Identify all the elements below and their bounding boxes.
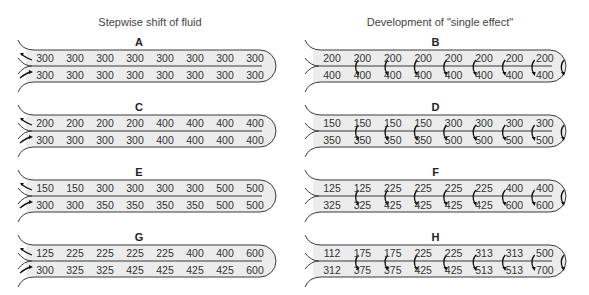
upper-limb-value: 225 [469, 182, 499, 194]
upper-limb-value: 300 [90, 182, 120, 194]
panel-d: D150350150350150350150350300500300500300… [305, 101, 570, 161]
upper-limb-value: 300 [210, 52, 240, 64]
lower-limb-value: 350 [317, 134, 347, 146]
upper-limb-value: 400 [240, 117, 270, 129]
lower-limb-value: 350 [378, 134, 408, 146]
tube-diagram [18, 166, 280, 226]
lower-limb-value: 350 [347, 134, 377, 146]
lower-limb-value: 300 [60, 69, 90, 81]
upper-limb-value: 500 [210, 182, 240, 194]
lower-limb-value: 425 [120, 264, 150, 276]
lower-limb-value: 300 [210, 69, 240, 81]
lower-limb-value: 425 [439, 264, 469, 276]
lower-limb-value: 425 [439, 199, 469, 211]
upper-limb-value: 400 [150, 117, 180, 129]
lower-limb-value: 350 [90, 199, 120, 211]
upper-limb-value: 300 [499, 117, 529, 129]
upper-limb-value: 225 [60, 247, 90, 259]
panel-e: E150300150300300350300350300350300350500… [18, 166, 280, 226]
upper-limb-value: 300 [180, 52, 210, 64]
lower-limb-value: 325 [90, 264, 120, 276]
upper-limb-value: 200 [499, 52, 529, 64]
lower-limb-value: 400 [150, 134, 180, 146]
lower-limb-value: 400 [530, 69, 560, 81]
lower-limb-value: 400 [439, 69, 469, 81]
lower-limb-value: 300 [30, 69, 60, 81]
upper-limb-value: 125 [347, 182, 377, 194]
tube-diagram [18, 36, 280, 96]
lower-limb-value: 375 [378, 264, 408, 276]
upper-limb-value: 200 [317, 52, 347, 64]
lower-limb-value: 300 [90, 69, 120, 81]
upper-limb-value: 150 [60, 182, 90, 194]
upper-limb-value: 200 [439, 52, 469, 64]
upper-limb-value: 300 [439, 117, 469, 129]
upper-limb-value: 150 [317, 117, 347, 129]
upper-limb-value: 313 [469, 247, 499, 259]
lower-limb-value: 400 [240, 134, 270, 146]
tube-diagram [305, 101, 570, 161]
lower-limb-value: 500 [530, 134, 560, 146]
upper-limb-value: 200 [347, 52, 377, 64]
upper-limb-value: 500 [530, 247, 560, 259]
lower-limb-value: 400 [408, 69, 438, 81]
upper-limb-value: 300 [120, 182, 150, 194]
upper-limb-value: 225 [120, 247, 150, 259]
upper-limb-value: 300 [60, 52, 90, 64]
lower-limb-value: 425 [378, 199, 408, 211]
upper-limb-value: 150 [347, 117, 377, 129]
lower-limb-value: 300 [30, 199, 60, 211]
upper-limb-value: 225 [439, 247, 469, 259]
upper-limb-value: 225 [408, 182, 438, 194]
lower-limb-value: 513 [499, 264, 529, 276]
lower-limb-value: 513 [469, 264, 499, 276]
lower-limb-value: 350 [120, 199, 150, 211]
lower-limb-value: 300 [150, 69, 180, 81]
upper-limb-value: 225 [90, 247, 120, 259]
upper-limb-value: 300 [30, 52, 60, 64]
tube-diagram [18, 101, 280, 161]
upper-limb-value: 300 [150, 182, 180, 194]
upper-limb-value: 125 [317, 182, 347, 194]
lower-limb-value: 350 [150, 199, 180, 211]
lower-limb-value: 425 [210, 264, 240, 276]
upper-limb-value: 400 [499, 182, 529, 194]
upper-limb-value: 313 [499, 247, 529, 259]
lower-limb-value: 600 [499, 199, 529, 211]
upper-limb-value: 300 [150, 52, 180, 64]
panel-g: G125300225325225325225425225425400425400… [18, 231, 280, 291]
upper-limb-value: 400 [210, 117, 240, 129]
upper-limb-value: 150 [378, 117, 408, 129]
lower-limb-value: 400 [210, 134, 240, 146]
tube-diagram [18, 231, 280, 291]
lower-limb-value: 300 [180, 69, 210, 81]
lower-limb-value: 350 [408, 134, 438, 146]
lower-limb-value: 600 [530, 199, 560, 211]
upper-limb-value: 112 [317, 247, 347, 259]
upper-limb-value: 500 [240, 182, 270, 194]
title-single-effect: Development of "single effect" [355, 16, 525, 28]
lower-limb-value: 500 [469, 134, 499, 146]
lower-limb-value: 400 [347, 69, 377, 81]
upper-limb-value: 200 [120, 117, 150, 129]
upper-limb-value: 400 [530, 182, 560, 194]
lower-limb-value: 300 [30, 264, 60, 276]
panel-b: B200400200400200400200400200400200400200… [305, 36, 570, 96]
lower-limb-value: 500 [439, 134, 469, 146]
upper-limb-value: 400 [210, 247, 240, 259]
lower-limb-value: 425 [150, 264, 180, 276]
tube-diagram [305, 166, 570, 226]
upper-limb-value: 200 [90, 117, 120, 129]
upper-limb-value: 200 [378, 52, 408, 64]
upper-limb-value: 150 [408, 117, 438, 129]
lower-limb-value: 400 [469, 69, 499, 81]
upper-limb-value: 225 [408, 247, 438, 259]
upper-limb-value: 200 [30, 117, 60, 129]
upper-limb-value: 300 [120, 52, 150, 64]
lower-limb-value: 600 [240, 264, 270, 276]
upper-limb-value: 600 [240, 247, 270, 259]
lower-limb-value: 300 [60, 134, 90, 146]
upper-limb-value: 125 [30, 247, 60, 259]
panel-f: F125325125325225425225425225425225425400… [305, 166, 570, 226]
lower-limb-value: 300 [60, 199, 90, 211]
